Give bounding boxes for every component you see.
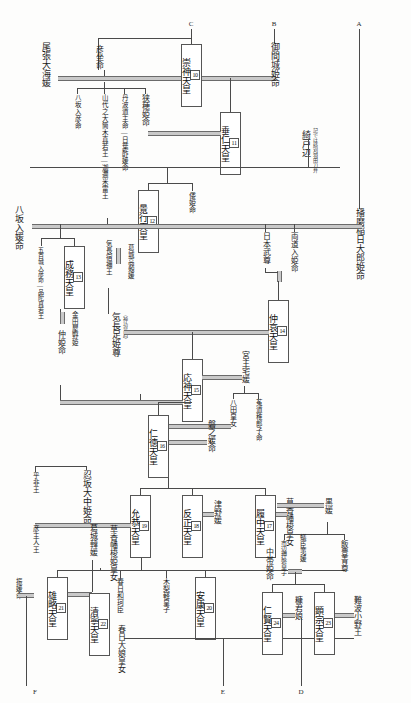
children-bar-hikoza: [77, 88, 145, 89]
emperor-box-13[interactable]: 13 成務天皇: [64, 246, 85, 309]
consort-nakatarashi: 中帯姫命: [264, 548, 272, 580]
children-bar-suinin: [148, 183, 192, 184]
connector-letter-b: B: [269, 20, 279, 28]
emperor-box-11[interactable]: 11 垂仁天皇: [220, 112, 241, 175]
emperor-number-10: 10: [190, 70, 200, 80]
emperor-number-21: 21: [56, 603, 66, 613]
descent-15-to-16: [158, 402, 159, 416]
prince-iokiiri: 五百城入彦命―品陀真若王: [37, 247, 43, 319]
cross-marker-kaniyo: [107, 218, 108, 224]
consort-arinomi: 蟻臣荑媛: [298, 534, 305, 562]
emperor-box-19[interactable]: 19 允恭天皇: [130, 495, 151, 558]
emperor-number-13: 13: [73, 272, 83, 282]
children-bar-nintoku: [140, 488, 265, 489]
consort-iwanohime: 磐之媛命: [206, 420, 214, 452]
child-drop-kinashi: [166, 570, 167, 578]
connector-letter-c: C: [186, 20, 196, 28]
consort-kasuga-wani: 春日和珂臣: [116, 578, 123, 613]
child-drop-seimu: [74, 238, 75, 246]
marriage-line-richu-kurohime: [277, 503, 324, 508]
join-yamatotakeru-futaji: [265, 272, 278, 273]
marriage-line-katsuragi-taka: [116, 248, 121, 264]
emperor-name-16: 仁徳天皇: [148, 429, 157, 465]
prince-yamatohime: 倭姫命: [188, 192, 195, 213]
consort-nakatsuhime: 仲姫命: [56, 330, 64, 354]
prince-tanba: 丹波道主命―日葉酢媛命: [120, 94, 127, 171]
marriage-line-suinin-sahohime: [148, 131, 221, 136]
emperor-name-22: 清寧天皇: [89, 607, 98, 643]
children-bar-keiko-left: [41, 238, 74, 239]
descent-futaji: [294, 224, 295, 232]
princess-futaji: 両道入姫命: [290, 232, 298, 272]
connector-line-a: [359, 29, 360, 209]
descent-nakatsuhime-down: [60, 385, 61, 400]
marriage-line-sujin: [58, 76, 276, 81]
connector-line-e: [223, 638, 224, 686]
consort-mimakihime: 御間城姫命: [270, 42, 279, 87]
consort-katsuragi-taka: 葛城高顙媛: [126, 244, 133, 279]
emperor-name-10: 崇神天皇: [181, 58, 190, 94]
marriage-line-nintoku-yatanohime: [169, 424, 231, 429]
descent-14-to-15: [192, 332, 193, 360]
emperor-name-21: 雄略天皇: [47, 591, 56, 627]
connector-letter-d: D: [296, 688, 306, 696]
connector-line-d: [301, 618, 302, 686]
emperor-number-17: 17: [264, 521, 274, 531]
cross-marker-hikoza: [104, 70, 105, 76]
consort-yasakairi: 八坂入媛命: [14, 205, 23, 250]
emperor-box-18[interactable]: 18 反正天皇: [182, 495, 203, 558]
child-drop-24: [272, 584, 273, 592]
prince-kinashi: 木梨軽皇子: [162, 578, 169, 613]
emperor-name-18: 反正天皇: [182, 509, 191, 545]
consort-owari: 尾張大海媛: [41, 42, 50, 87]
consort-katsuragi-kara: 葛城韓媛: [88, 524, 96, 556]
descent-21-to-22: [100, 568, 101, 570]
emperor-box-14[interactable]: 14 仲哀天皇: [268, 300, 289, 363]
emperor-box-16[interactable]: 16 仁徳天皇: [148, 415, 169, 478]
prince-yamatotakeru: 日本武尊: [261, 232, 269, 264]
emperor-box-23[interactable]: 23 顕宗天皇: [314, 592, 335, 655]
child-drop-yamatohime: [192, 183, 193, 191]
consort-okinaga-tarashi: 気長足姫尊: [111, 312, 120, 357]
genealogy-chart: C B A F E D 彦坐命 尾張大海媛 八坂入彦命 山代之大筒木真若王―迦邇…: [0, 0, 411, 703]
prince-ujinowaki: 菟道稚郎子命: [254, 399, 261, 441]
lineage-line-ojin-children: [158, 402, 192, 403]
consort-sahohime: 狭穂姫命: [140, 94, 148, 126]
prince-oohodo: 乎非王: [31, 472, 38, 493]
lineage-line-c-top: [98, 38, 192, 39]
descent-to-chuai: [278, 281, 279, 301]
emperor-number-16: 16: [157, 441, 167, 451]
emperor-box-24[interactable]: 24 仁賢天皇: [262, 592, 283, 655]
child-drop-23: [324, 584, 325, 592]
marriage-line-richu-kusaka: [276, 512, 287, 517]
children-stem-nintoku: [168, 478, 169, 488]
marriage-line-ninken-nukakimi: [283, 613, 295, 618]
prince-iitoyo: 飯豊青尊: [340, 540, 348, 572]
annotation-jingu: （神功皇后）: [122, 312, 127, 342]
emperor-number-19: 19: [139, 521, 149, 531]
marriage-line-keiko: [32, 224, 362, 229]
princess-yatanohime: 八田皇女: [229, 399, 236, 427]
emperor-box-10[interactable]: 10 崇神天皇: [181, 44, 202, 107]
children-stem-ingyo: [141, 558, 142, 570]
descent-kara: [92, 560, 93, 592]
emperor-box-15[interactable]: 15 応神天皇: [182, 359, 203, 422]
emperor-box-20[interactable]: 20 安康天皇: [195, 577, 216, 640]
emperor-number-20: 20: [204, 603, 214, 613]
descent-kurohime: [327, 522, 328, 534]
prince-hikoza: 彦坐命: [94, 45, 102, 69]
prince-yasaka-hiko: 八坂入彦命: [73, 94, 80, 129]
emperor-box-21[interactable]: 21 雄略天皇: [47, 577, 68, 640]
emperor-number-18: 18: [191, 521, 201, 531]
emperor-name-24: 仁賢天皇: [262, 606, 271, 642]
consort-osaka-oonaka: 忍坂大中姫命: [82, 470, 91, 524]
children-bar-kurohime: [284, 534, 344, 535]
emperor-box-22[interactable]: 22 清寧天皇: [89, 593, 110, 656]
cross-marker-ojin: [140, 394, 141, 400]
prince-ichinobe: 市辺押磐皇子: [280, 540, 286, 576]
emperor-box-12[interactable]: 12 景行天皇: [138, 190, 159, 253]
emperor-number-23: 23: [323, 618, 333, 628]
child-drop-kasuga: [120, 570, 121, 578]
descent-ichinobe-children: [295, 572, 296, 584]
emperor-number-22: 22: [98, 619, 108, 629]
